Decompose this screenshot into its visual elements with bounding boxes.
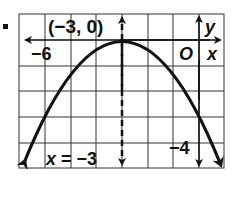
origin-label: O	[179, 44, 193, 64]
symmetry-rest: = −3	[56, 149, 97, 169]
x-tick-label: −6	[31, 44, 52, 64]
y-axis-label: y	[204, 17, 216, 37]
x-axis-label: x	[206, 44, 218, 64]
symmetry-label: x = −3	[45, 149, 97, 169]
vertex-label: (−3, 0)	[48, 16, 103, 37]
y-tick-label: −4	[169, 138, 190, 158]
parabola-graph: (−3, 0) −6 −4 O x y x = −3	[0, 0, 237, 215]
